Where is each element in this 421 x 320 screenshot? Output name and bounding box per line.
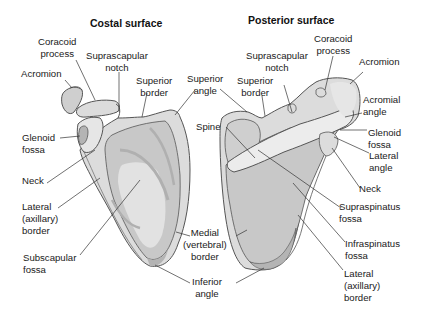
scapula-diagram: Costal surface Posterior surface Coracoi…	[0, 0, 421, 320]
label-inferior-angle: Inferior angle	[192, 276, 222, 300]
label-superior-border-left: Superior border	[136, 75, 172, 99]
title-posterior-surface: Posterior surface	[248, 14, 334, 26]
label-infraspinatus-fossa: Infraspinatus fossa	[345, 238, 400, 262]
costal-scapula	[62, 87, 190, 267]
label-supraspinatus-fossa: Supraspinatus fossa	[339, 201, 400, 225]
label-superior-border-right: Superior border	[237, 75, 273, 99]
label-acromial-angle: Acromial angle	[363, 94, 400, 118]
label-subscapular-fossa: Subscapular fossa	[23, 252, 76, 276]
label-coracoid-process-left: Coracoid process	[38, 36, 76, 60]
label-glenoid-fossa-left: Glenoid fossa	[22, 132, 55, 156]
title-costal-surface: Costal surface	[90, 17, 162, 29]
label-acromion-left: Acromion	[21, 68, 62, 80]
label-lateral-angle: Lateral angle	[369, 150, 398, 174]
label-medial-border: Medial (vertebral) border	[183, 227, 227, 263]
label-superior-angle: Superior angle	[187, 73, 223, 97]
label-acromion-right: Acromion	[359, 56, 400, 68]
label-neck-left: Neck	[22, 175, 44, 187]
label-suprascapular-notch-right: Suprascapular notch	[246, 50, 308, 74]
label-spine: Spine	[196, 121, 221, 133]
label-glenoid-fossa-right: Glenoid fossa	[368, 127, 401, 151]
label-coracoid-process-right: Coracoid process	[314, 33, 352, 57]
label-lateral-border-left: Lateral (axillary) border	[22, 201, 58, 237]
label-neck-right: Neck	[359, 183, 381, 195]
label-suprascapular-notch-left: Suprascapular notch	[86, 50, 148, 74]
label-lateral-border-right: Lateral (axillary) border	[344, 268, 380, 304]
